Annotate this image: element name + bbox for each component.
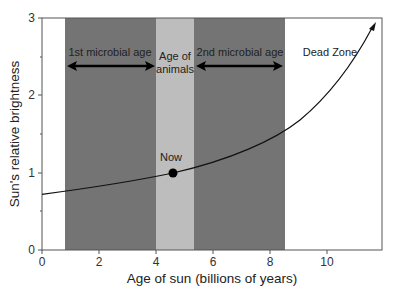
y-tick-2: 2	[28, 88, 35, 102]
cropped-caption-fragment	[0, 288, 396, 300]
y-tick-1: 1	[28, 166, 35, 180]
y-axis-title: Sun's relative brightness	[7, 60, 22, 207]
region-label-dead-zone: Dead Zone	[303, 46, 357, 58]
now-marker	[169, 169, 178, 178]
curve-arrowhead-icon	[369, 22, 376, 31]
x-tick-2: 2	[96, 255, 103, 269]
y-tick-0: 0	[28, 243, 35, 257]
x-tick-8: 8	[267, 255, 274, 269]
now-label: Now	[160, 151, 182, 163]
y-axis-ticks	[38, 18, 42, 250]
x-tick-4: 4	[153, 255, 160, 269]
x-axis-title: Age of sun (billions of years)	[127, 271, 297, 286]
region-label-age-of-animals-line2: animals	[156, 63, 194, 75]
brightness-chart: 0 1 2 3 0 2 4 6 8 10 Age of sun (billion…	[0, 0, 396, 300]
y-tick-3: 3	[28, 11, 35, 25]
x-tick-10: 10	[320, 255, 334, 269]
x-axis-ticks	[42, 250, 327, 254]
x-tick-6: 6	[210, 255, 217, 269]
region-label-age-of-animals-line1: Age of	[159, 50, 192, 62]
region-label-1st-microbial-age: 1st microbial age	[68, 46, 151, 58]
x-tick-0: 0	[39, 255, 46, 269]
region-label-2nd-microbial-age: 2nd microbial age	[197, 46, 284, 58]
